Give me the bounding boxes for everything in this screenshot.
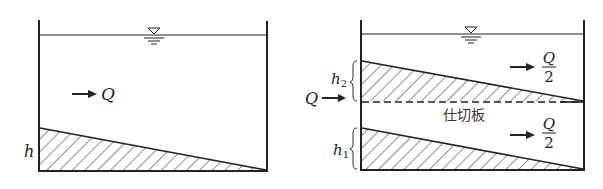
upper-flow-numerator: Q [543, 49, 555, 67]
lower-depth-label: h1 [333, 141, 349, 160]
left-depth-label: h [24, 142, 34, 161]
right-tank: 仕切板 h2 h1 Q Q 2 Q 2 [305, 20, 585, 171]
inlet-flow-label: Q [305, 89, 318, 108]
water-level-icon [144, 28, 164, 44]
upper-depth-brace [350, 61, 357, 101]
lower-flow-numerator: Q [543, 115, 555, 133]
inlet-arrow-icon [322, 94, 346, 102]
flow-arrow-icon [72, 90, 97, 98]
water-level-icon [461, 27, 481, 43]
left-tank: Q h [24, 20, 268, 172]
upper-depth-label: h2 [331, 70, 347, 89]
lower-depth-brace [350, 128, 357, 169]
sedimentation-diagram: Q h 仕切板 h2 h1 Q [0, 0, 603, 189]
lower-flow-denominator: 2 [544, 134, 554, 152]
partition-label: 仕切板 [443, 107, 485, 123]
upper-flow-denominator: 2 [544, 68, 554, 86]
left-flow-label: Q [101, 84, 115, 104]
lower-flow-arrow-icon [510, 131, 535, 139]
upper-flow-arrow-icon [510, 63, 535, 71]
